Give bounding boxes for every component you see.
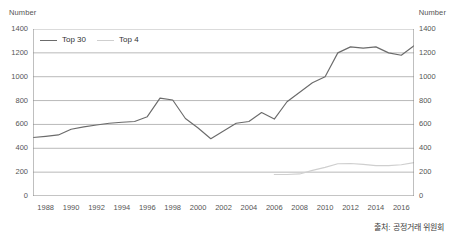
x-tick-label: 1994 xyxy=(114,203,131,212)
y-tick-label-left: 400 xyxy=(0,143,28,152)
x-tick-label: 2016 xyxy=(393,203,410,212)
x-tick-label: 2008 xyxy=(291,203,308,212)
y-tick-label-left: 1200 xyxy=(0,48,28,57)
x-tick-label: 2006 xyxy=(266,203,283,212)
y-tick-label-left: 1000 xyxy=(0,72,28,81)
data-series-layer xyxy=(33,46,414,175)
y-tick-label-left: 600 xyxy=(0,119,28,128)
legend-label: Top 30 xyxy=(62,36,86,44)
y-axis-title-left: Number xyxy=(9,8,36,17)
y-tick-label-right: 1200 xyxy=(419,48,452,57)
y-tick-label-right: 400 xyxy=(419,143,452,152)
plot-area xyxy=(33,29,414,196)
y-tick-label-right: 1000 xyxy=(419,72,452,81)
series-line-top-4 xyxy=(274,163,414,175)
axis-spines xyxy=(33,29,414,196)
gridlines xyxy=(33,29,414,172)
x-tick-label: 2012 xyxy=(342,203,359,212)
plot-svg xyxy=(33,29,414,196)
x-tick-label: 1992 xyxy=(88,203,105,212)
x-tick-label: 1998 xyxy=(164,203,181,212)
x-tick-label: 2010 xyxy=(317,203,334,212)
chart-legend: Top 30Top 4 xyxy=(40,36,139,44)
y-tick-label-left: 1400 xyxy=(0,24,28,33)
x-tick-label: 1996 xyxy=(139,203,156,212)
y-tick-label-right: 800 xyxy=(419,96,452,105)
x-tick-label: 2014 xyxy=(368,203,385,212)
y-axis-title-right: Number xyxy=(419,8,446,17)
y-tick-label-left: 0 xyxy=(0,191,28,200)
x-tick-label: 2000 xyxy=(190,203,207,212)
legend-swatch-icon xyxy=(97,40,114,41)
y-tick-label-left: 200 xyxy=(0,167,28,176)
y-tick-label-right: 200 xyxy=(419,167,452,176)
x-tick-label: 1988 xyxy=(37,203,54,212)
y-tick-label-right: 600 xyxy=(419,119,452,128)
legend-swatch-icon xyxy=(40,40,57,41)
source-note: 출처: 공정거래 위원회 xyxy=(374,221,444,232)
series-line-top-30 xyxy=(33,46,414,139)
legend-item-top-4[interactable]: Top 4 xyxy=(97,36,139,44)
x-tick-label: 2002 xyxy=(215,203,232,212)
y-tick-label-left: 800 xyxy=(0,96,28,105)
x-tick-label: 1990 xyxy=(63,203,80,212)
y-tick-label-right: 1400 xyxy=(419,24,452,33)
chart-figure: Number Number 0200400600800100012001400 … xyxy=(0,0,452,237)
legend-item-top-30[interactable]: Top 30 xyxy=(40,36,86,44)
legend-label: Top 4 xyxy=(119,36,139,44)
y-tick-label-right: 0 xyxy=(419,191,452,200)
x-tick-label: 2004 xyxy=(241,203,258,212)
